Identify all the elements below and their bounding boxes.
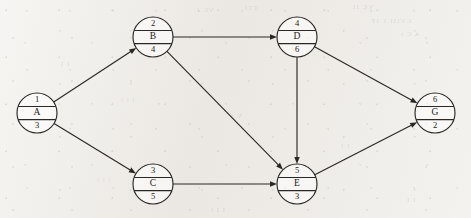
- node-g-label: G: [432, 107, 439, 117]
- node-b-label: B: [150, 31, 156, 41]
- arrowhead-e-to-g: [410, 122, 417, 128]
- arrowhead-a-to-b: [129, 48, 136, 54]
- edges-group: [54, 34, 418, 186]
- node-d-duration: 6: [295, 44, 299, 54]
- node-e-number: 5: [295, 165, 299, 175]
- node-c-number: 3: [151, 165, 155, 175]
- node-b[interactable]: 2B4: [133, 17, 173, 57]
- network-diagram-canvas: VC ITTIVC IICVIII 1 1FA C tI Il l lV II …: [0, 0, 471, 218]
- node-d[interactable]: 4D6: [277, 17, 317, 57]
- node-a-label: A: [34, 107, 41, 117]
- arrowhead-b-to-d: [270, 34, 277, 39]
- node-a-number: 1: [35, 94, 39, 104]
- network-graph: 1A32B43C54D65E36G2: [0, 0, 471, 218]
- arrowhead-d-to-g: [410, 98, 417, 104]
- arrowhead-c-to-e: [270, 181, 277, 186]
- arrowhead-d-to-e: [294, 157, 299, 164]
- node-c-label: C: [150, 178, 156, 188]
- edge-a-to-b: [54, 50, 133, 102]
- node-c-duration: 5: [151, 191, 155, 201]
- nodes-group: 1A32B43C54D65E36G2: [17, 17, 455, 204]
- node-e-duration: 3: [295, 191, 299, 201]
- node-e-label: E: [294, 178, 300, 188]
- node-e[interactable]: 5E3: [277, 164, 317, 204]
- node-g-duration: 2: [433, 120, 437, 130]
- node-g-number: 6: [433, 94, 437, 104]
- edge-b-to-e: [167, 51, 280, 167]
- node-d-label: D: [294, 31, 301, 41]
- edge-d-to-g: [315, 47, 415, 102]
- edge-e-to-g: [315, 124, 414, 175]
- arrowhead-a-to-c: [129, 168, 136, 174]
- node-g[interactable]: 6G2: [415, 93, 455, 133]
- edge-a-to-c: [54, 123, 133, 171]
- node-c[interactable]: 3C5: [133, 164, 173, 204]
- node-a-duration: 3: [35, 120, 39, 130]
- node-a[interactable]: 1A3: [17, 93, 57, 133]
- node-b-number: 2: [151, 18, 155, 28]
